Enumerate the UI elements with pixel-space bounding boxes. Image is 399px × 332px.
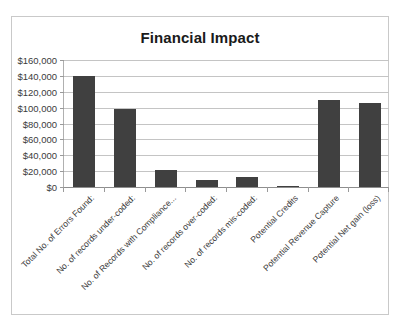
x-axis-ticks <box>63 187 389 192</box>
x-axis-tick-mark <box>104 187 105 192</box>
y-axis-label: $140,000 <box>17 70 57 81</box>
bar <box>114 109 136 187</box>
bar <box>318 100 340 187</box>
y-axis-label: $20,000 <box>23 166 57 177</box>
x-axis-tick-mark <box>388 187 389 192</box>
x-axis-tick-mark <box>267 187 268 192</box>
chart-title: Financial Impact <box>12 29 388 46</box>
bar <box>73 76 95 187</box>
x-axis-tick-mark <box>348 187 349 192</box>
y-axis-label: $60,000 <box>23 134 57 145</box>
bar <box>359 103 381 187</box>
y-axis-label: $0 <box>46 182 57 193</box>
x-axis-tick-mark <box>63 187 64 192</box>
bar <box>236 177 258 187</box>
y-axis-label: $80,000 <box>23 118 57 129</box>
chart-frame: Financial Impact $0$20,000$40,000$60,000… <box>11 16 389 315</box>
y-axis-label: $40,000 <box>23 150 57 161</box>
x-axis-tick-mark <box>226 187 227 192</box>
bars-layer <box>64 60 389 187</box>
plot-area: $0$20,000$40,000$60,000$80,000$100,000$1… <box>63 60 389 187</box>
x-axis-tick-mark <box>308 187 309 192</box>
y-axis-label: $120,000 <box>17 86 57 97</box>
x-axis-tick-mark <box>145 187 146 192</box>
y-axis-label: $100,000 <box>17 102 57 113</box>
bar <box>155 170 177 187</box>
y-axis-label: $160,000 <box>17 55 57 66</box>
x-axis-labels: Total No. of Errors Found:No. of records… <box>63 193 389 303</box>
x-axis-tick-mark <box>185 187 186 192</box>
bar <box>196 180 218 187</box>
